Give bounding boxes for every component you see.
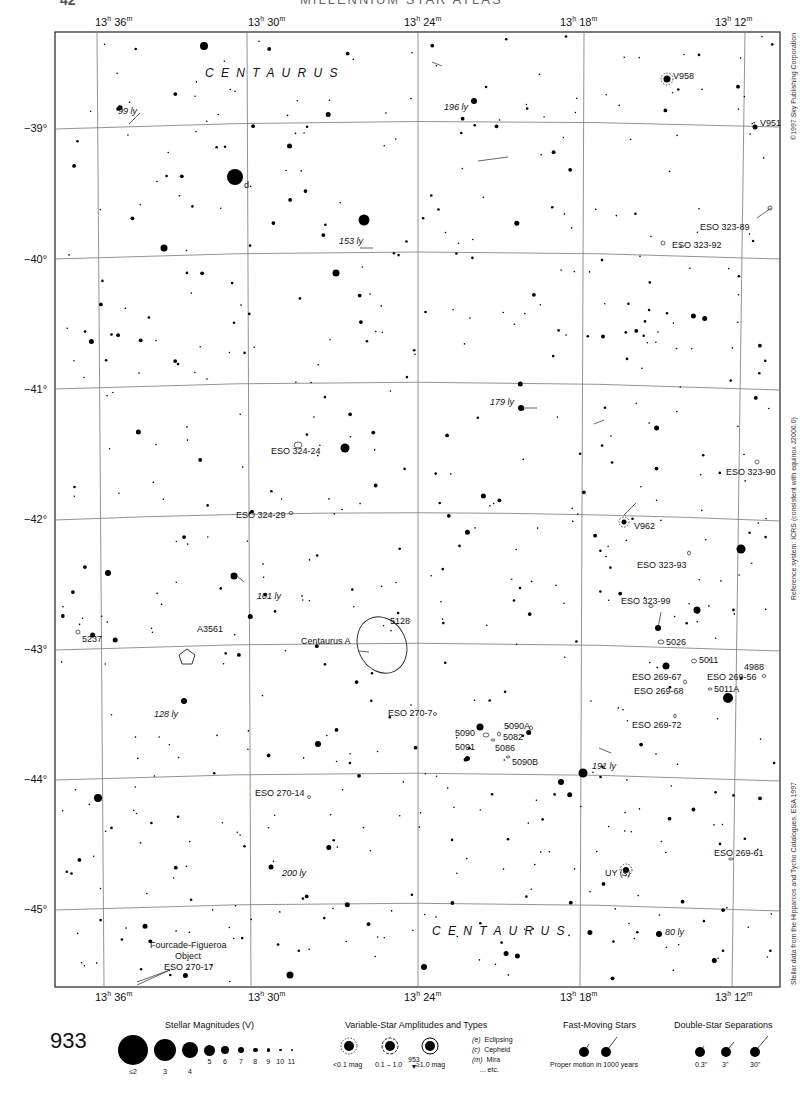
variable-amplitude-symbols (335, 1034, 425, 1058)
object-label[interactable]: ESO 269-68 (634, 686, 684, 696)
distance-label: 128 ly (154, 709, 178, 719)
magnitude-label: ≤2 (125, 1068, 141, 1075)
legend: 933 Stellar Magnitudes (V) ≤234567891011… (0, 1000, 809, 1094)
fast-moving-symbols (575, 1030, 635, 1060)
object-label[interactable]: ESO 323-92 (672, 240, 722, 250)
object-label[interactable]: V962 (634, 521, 655, 531)
object-label[interactable]: ESO 270-14 (255, 788, 305, 798)
object-label[interactable]: 5128 (390, 616, 410, 626)
variable-type: (e)Eclipsing (472, 1036, 513, 1043)
distance-label: 191 ly (592, 761, 616, 771)
magnitude-dot (182, 1042, 198, 1058)
distance-label: 80 ly (665, 927, 684, 937)
object-label[interactable]: ESO 269-67 (632, 672, 682, 682)
object-label[interactable]: A3561 (197, 624, 223, 634)
magnitude-label: 11 (284, 1058, 300, 1065)
object-label[interactable]: 5011A (714, 684, 739, 694)
magnitude-dot (118, 1035, 148, 1065)
magnitude-label: 5 (202, 1058, 218, 1065)
stars-bright (94, 42, 758, 979)
variable-type: (m)Mira (472, 1056, 500, 1063)
object-label[interactable]: ESO 269-56 (707, 672, 757, 682)
double-sep-0: 0.3" (695, 1061, 707, 1068)
amp-mid: 0.1 – 1.0 (375, 1061, 402, 1068)
object-label[interactable]: 5082 (503, 732, 523, 742)
amp-high: ≥1.0 mag (416, 1061, 445, 1068)
magnitude-dot (221, 1046, 229, 1054)
next-page-link[interactable]: 953▼ (408, 1056, 420, 1070)
magnitude-dot (291, 1049, 293, 1051)
star-chart[interactable] (0, 0, 809, 1000)
magnitude-dot (238, 1047, 244, 1053)
object-label[interactable]: Centaurus A (301, 636, 351, 646)
variables-title: Variable-Star Amplitudes and Types (345, 1020, 487, 1030)
proper-motion-vectors (129, 62, 771, 985)
object-label[interactable]: Fourcade-Figueroa (150, 940, 227, 950)
object-label[interactable]: 5086 (495, 743, 515, 753)
reference-system-credit: Reference system: ICRS (consistent with … (790, 417, 797, 600)
fast-moving-caption: Proper motion in 1000 years (550, 1061, 638, 1068)
object-label[interactable]: ESO 323-90 (726, 467, 776, 477)
double-sep-2: 30" (750, 1061, 760, 1068)
amp-low: <0.1 mag (333, 1061, 362, 1068)
magnitudes-title: Stellar Magnitudes (V) (165, 1020, 254, 1030)
variable-type: ... etc. (472, 1066, 499, 1073)
next-page-number[interactable]: 953 (408, 1056, 420, 1063)
object-label[interactable]: ESO 269-72 (632, 720, 682, 730)
galaxy-cluster-a3561[interactable] (179, 649, 195, 664)
object-label[interactable]: UY (s) (605, 868, 630, 878)
object-label[interactable]: ESO 323-99 (621, 596, 671, 606)
fast-moving-title: Fast-Moving Stars (563, 1020, 636, 1030)
distance-label: 200 ly (282, 868, 306, 878)
double-star-symbols (690, 1030, 780, 1060)
double-star-title: Double-Star Separations (674, 1020, 773, 1030)
magnitude-label: 3 (157, 1068, 173, 1075)
object-label[interactable]: Object (175, 951, 201, 961)
distance-label: 99 ly (118, 106, 137, 116)
object-label[interactable]: ESO 323-89 (700, 222, 750, 232)
magnitude-label: 6 (217, 1058, 233, 1065)
variable-type: (c)Cepheid (472, 1046, 510, 1053)
object-label[interactable]: ESO 270-17 (164, 962, 214, 972)
magnitude-label: 4 (182, 1068, 198, 1075)
object-label[interactable]: ESO 324-29 (236, 510, 286, 520)
object-label[interactable]: 5091 (455, 742, 475, 752)
object-label[interactable]: 4988 (744, 662, 764, 672)
object-label[interactable]: V958 (673, 71, 694, 81)
ra-gridlines (97, 32, 745, 987)
object-label[interactable]: ESO 324-24 (271, 446, 321, 456)
object-label[interactable]: 5011 (699, 655, 718, 665)
object-label[interactable]: ESO 269-61 (714, 848, 764, 858)
legend-page-number: 933 (50, 1028, 87, 1054)
object-label[interactable]: V951 (760, 118, 781, 128)
copyright-credit: ©1997 Sky Publishing Corporation (790, 33, 797, 140)
distance-label: 196 ly (444, 102, 468, 112)
magnitude-dot (204, 1045, 215, 1056)
distance-label: 153 ly (339, 236, 363, 246)
data-source-credit: Stellar data from the Hipparcos and Tych… (790, 782, 797, 985)
distance-label: 101 ly (257, 591, 281, 601)
constellation-label: C E N T A U R U S (432, 924, 566, 938)
double-sep-1: 3" (722, 1061, 728, 1068)
magnitude-dot (154, 1039, 176, 1061)
distance-label: 179 ly (490, 397, 514, 407)
variable-large-amp-symbol (420, 1034, 444, 1058)
object-label[interactable]: d (244, 180, 249, 190)
object-label[interactable]: 5090B (512, 757, 538, 767)
magnitude-dot (253, 1048, 258, 1053)
object-label[interactable]: 5026 (666, 637, 686, 647)
object-label[interactable]: 5237 (82, 634, 102, 644)
galaxies-small (76, 206, 772, 860)
magnitude-dot (279, 1049, 282, 1052)
magnitude-dot (267, 1048, 271, 1052)
object-label[interactable]: ESO 323-93 (637, 560, 687, 570)
object-label[interactable]: 5090 (455, 728, 475, 738)
variable-star-rings (619, 73, 673, 876)
object-label[interactable]: 5090A (504, 721, 530, 731)
chart-frame (55, 32, 780, 987)
constellation-label: C E N T A U R U S (205, 66, 339, 80)
object-label[interactable]: ESO 270-7 (388, 708, 433, 718)
